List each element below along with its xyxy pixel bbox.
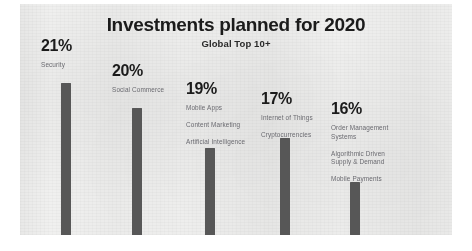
bar-category-4-2: Cryptocurrencies [261,131,335,140]
bar-category-3-2: Content Marketing [186,121,266,130]
bar-1 [61,83,71,235]
bar-value-label-4: 17% [261,91,335,107]
bar-4 [280,138,290,235]
bar-5 [350,182,360,235]
bar-category-3-3: Artificial Intelligence [186,138,266,147]
bar-group-4: 17% Internet of Things Cryptocurrencies [261,91,335,140]
bar-2 [132,108,142,235]
bar-value-label-3: 19% [186,81,266,97]
bar-value-label-2: 20% [112,63,186,79]
chart-title: Investments planned for 2020 [0,14,472,36]
bar-group-5: 16% Order Management Systems Algorithmic… [331,101,407,184]
bar-category-5-3: Mobile Payments [331,175,407,184]
bar-group-2: 20% Social Commerce [112,63,186,95]
chart-content: Investments planned for 2020 Global Top … [0,0,472,251]
bar-group-1: 21% Security [41,38,107,70]
bar-3 [205,148,215,235]
bar-category-4-1: Internet of Things [261,114,335,123]
bar-category-3-1: Mobile Apps [186,104,266,113]
bar-category-1-1: Security [41,61,107,70]
bar-category-5-2: Algorithmic Driven Supply & Demand [331,150,407,168]
bar-category-5-1: Order Management Systems [331,124,407,142]
chart-slide: Investments planned for 2020 Global Top … [0,0,472,251]
bar-value-label-5: 16% [331,101,407,117]
bar-category-2-1: Social Commerce [112,86,186,95]
bar-value-label-1: 21% [41,38,107,54]
bar-group-3: 19% Mobile Apps Content Marketing Artifi… [186,81,266,146]
